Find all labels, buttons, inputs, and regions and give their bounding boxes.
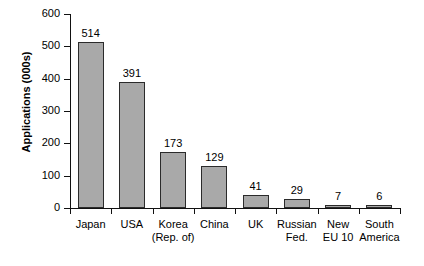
bar	[160, 152, 186, 208]
y-axis-tick-label: 100	[4, 170, 60, 181]
x-axis-tick	[235, 209, 236, 214]
y-axis-tick-label: 0	[4, 202, 60, 213]
y-axis-tick	[64, 176, 70, 177]
bar	[325, 205, 351, 208]
x-axis-tick	[70, 209, 71, 214]
y-axis-tick-label: 300	[4, 105, 60, 116]
bar-value-label: 129	[184, 152, 244, 163]
bar-value-label: 514	[61, 28, 121, 39]
x-axis-tick	[400, 209, 401, 214]
category-label-line: South	[365, 218, 394, 230]
bar	[201, 166, 227, 208]
bar	[243, 195, 269, 208]
y-axis-tick	[64, 79, 70, 80]
category-label-line: America	[339, 231, 419, 244]
y-axis-tick-label: 400	[4, 73, 60, 84]
bar-value-label: 391	[102, 68, 162, 79]
bar-chart: Applications (000s) 0100200300400500600 …	[0, 0, 424, 266]
y-axis-tick	[64, 111, 70, 112]
x-axis-tick	[359, 209, 360, 214]
y-axis-line	[70, 14, 71, 209]
x-axis-category-label: SouthAmerica	[339, 218, 419, 244]
bar	[119, 82, 145, 208]
category-label-line: (Rep. of)	[133, 231, 213, 244]
y-axis-tick-label: 600	[4, 8, 60, 19]
bar	[366, 205, 392, 208]
y-axis-tick	[64, 46, 70, 47]
y-axis-tick-label: 500	[4, 40, 60, 51]
y-axis-tick	[64, 143, 70, 144]
x-axis-tick	[194, 209, 195, 214]
x-axis-tick	[318, 209, 319, 214]
bar	[284, 199, 310, 208]
bar	[78, 42, 104, 208]
x-axis-tick	[111, 209, 112, 214]
bar-value-label: 6	[349, 191, 409, 202]
x-axis-tick	[153, 209, 154, 214]
y-axis-tick	[64, 14, 70, 15]
bar-value-label: 173	[143, 138, 203, 149]
x-axis-tick	[276, 209, 277, 214]
y-axis-tick-label: 200	[4, 137, 60, 148]
